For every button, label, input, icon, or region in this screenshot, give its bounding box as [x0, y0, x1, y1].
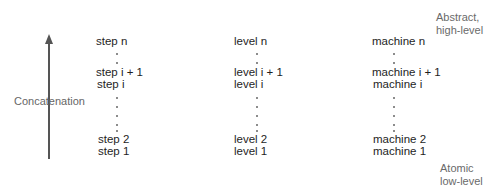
- machine-1: machine 1: [373, 145, 426, 157]
- concatenation-label: Concatenation: [14, 95, 85, 107]
- step-n: step n: [96, 35, 127, 47]
- abstract-label-line2: high-level: [436, 24, 483, 37]
- step-2: step 2: [98, 133, 129, 145]
- machine-i-plus-1: machine i + 1: [372, 66, 441, 78]
- atomic-label: Atomic low-level: [440, 162, 483, 188]
- abstract-label: Abstract, high-level: [436, 11, 483, 37]
- atomic-label-line1: Atomic: [440, 162, 483, 175]
- step-i: step i: [97, 78, 125, 90]
- level-i-plus-1: level i + 1: [234, 66, 283, 78]
- machine-n: machine n: [372, 35, 425, 47]
- machine-i: machine i: [373, 78, 422, 90]
- step-1: step 1: [98, 145, 129, 157]
- abstract-label-line1: Abstract,: [436, 11, 483, 24]
- atomic-label-line2: low-level: [440, 175, 483, 188]
- step-i-plus-1: step i + 1: [96, 66, 143, 78]
- level-2: level 2: [234, 133, 267, 145]
- machine-2: machine 2: [373, 133, 426, 145]
- level-1: level 1: [234, 145, 267, 157]
- level-n: level n: [234, 35, 267, 47]
- level-i: level i: [234, 78, 263, 90]
